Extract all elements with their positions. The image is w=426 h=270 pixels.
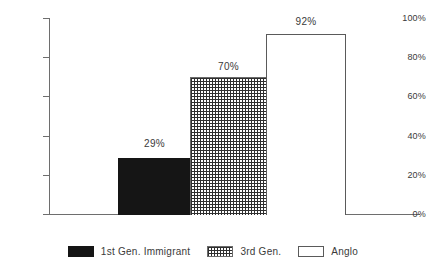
bar-value-anglo: 92% bbox=[266, 17, 346, 27]
y-axis-tick-20 bbox=[43, 175, 49, 176]
y-axis-label-40: 40% bbox=[385, 132, 426, 141]
y-axis-tick-80 bbox=[43, 57, 49, 58]
legend-swatch-solid-black-icon bbox=[68, 246, 94, 257]
legend-swatch-cross-hatch-icon bbox=[207, 246, 233, 257]
bar-3rd-gen bbox=[190, 77, 267, 215]
y-axis-label-0: 0% bbox=[385, 210, 426, 219]
y-axis-line bbox=[49, 18, 50, 215]
y-axis-label-20: 20% bbox=[385, 171, 426, 180]
y-axis-tick-100 bbox=[43, 18, 49, 19]
y-axis-label-80: 80% bbox=[385, 53, 426, 62]
legend-item-1st-gen-immigrant: 1st Gen. Immigrant bbox=[68, 246, 191, 257]
y-axis-tick-60 bbox=[43, 96, 49, 97]
chart-legend: 1st Gen. Immigrant 3rd Gen. Anglo bbox=[0, 240, 426, 262]
bar-1st-gen-immigrant bbox=[118, 158, 191, 215]
y-axis-tick-40 bbox=[43, 136, 49, 137]
bar-anglo bbox=[266, 34, 346, 215]
legend-item-3rd-gen: 3rd Gen. bbox=[207, 246, 281, 257]
y-axis-label-60: 60% bbox=[385, 92, 426, 101]
bar-value-1st-gen-immigrant: 29% bbox=[118, 139, 191, 149]
bar-chart: 100% 80% 60% 40% 20% 0% 29% 70% 92% 1st … bbox=[0, 0, 426, 270]
legend-item-anglo: Anglo bbox=[298, 246, 358, 257]
legend-label-anglo: Anglo bbox=[331, 246, 358, 257]
y-axis-tick-0 bbox=[43, 214, 49, 215]
bar-value-3rd-gen: 70% bbox=[190, 62, 267, 72]
y-axis-label-100: 100% bbox=[385, 14, 426, 23]
legend-label-1st-gen-immigrant: 1st Gen. Immigrant bbox=[101, 246, 191, 257]
legend-label-3rd-gen: 3rd Gen. bbox=[240, 246, 281, 257]
legend-swatch-open-white-icon bbox=[298, 246, 324, 257]
